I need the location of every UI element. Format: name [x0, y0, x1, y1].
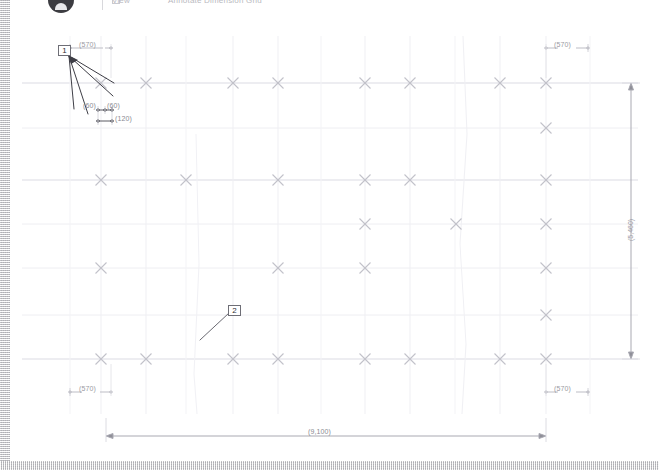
dimension-label-bottom-left: (570)	[79, 385, 96, 392]
dimension-top-right	[545, 44, 589, 78]
toolbar-divider	[102, 0, 103, 10]
dimension-label-detail-total: (120)	[115, 115, 132, 122]
dimension-label-top-left: (570)	[79, 41, 96, 48]
callout-2-leader-line	[200, 313, 229, 340]
bottom-panel-rail[interactable]	[0, 461, 659, 470]
dimension-label-overall-horizontal: (9,100)	[308, 428, 331, 435]
top-toolbar: View Annotate Dimension Grid	[0, 0, 659, 14]
column-markers	[96, 78, 552, 365]
vertical-gridlines	[101, 36, 546, 414]
drawing-svg	[10, 14, 659, 461]
dimension-label-overall-vertical: (5,460)	[627, 219, 634, 241]
callout-balloon-1[interactable]: 1	[58, 45, 71, 56]
callout-balloon-2[interactable]: 2	[228, 305, 241, 316]
toolbar-item-view[interactable]: View	[112, 0, 130, 5]
dimension-label-detail-right: (60)	[107, 102, 120, 109]
user-avatar-icon[interactable]	[48, 0, 74, 13]
dimension-label-detail-left: (60)	[83, 102, 96, 109]
toolbar-item-annotate[interactable]: Annotate Dimension Grid	[168, 0, 262, 5]
brace-line	[460, 36, 467, 414]
dimension-label-top-right: (570)	[554, 41, 571, 48]
dimension-label-bottom-right: (570)	[554, 385, 571, 392]
brace-line	[194, 134, 199, 414]
left-panel-rail[interactable]	[0, 0, 10, 462]
cad-application-window: View Annotate Dimension Grid	[0, 0, 659, 470]
drawing-canvas[interactable]: (570) (570) (570) (570) (9,100) (5,460) …	[10, 14, 659, 461]
